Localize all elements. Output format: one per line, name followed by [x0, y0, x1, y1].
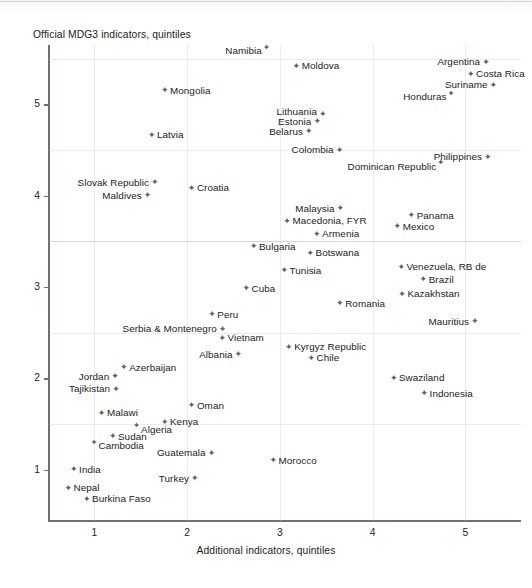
star-marker-icon: ✦ [148, 130, 156, 141]
star-marker-icon: ✦ [70, 464, 78, 475]
data-point: ✦Mexico [394, 221, 435, 233]
data-point-label: Cuba [252, 283, 276, 294]
data-point-label: Burkina Faso [92, 493, 151, 504]
data-point: ✦Venezuela, RB de [397, 261, 486, 273]
data-point-label: Slovak Republic [78, 177, 150, 188]
data-point-label: Macedonia, FYR [292, 215, 366, 226]
data-point-label: Oman [197, 400, 224, 411]
data-point: ✦Malawi [98, 407, 138, 419]
data-point-label: Tunisia [290, 265, 322, 276]
data-point-label: Turkey [159, 473, 189, 484]
y-tick-label-2: 2 [14, 372, 40, 383]
data-point-label: Cambodia [98, 440, 143, 451]
data-point: ✦Armenia [313, 228, 359, 240]
star-marker-icon: ✦ [307, 248, 315, 259]
data-point-label: Brazil [429, 274, 454, 285]
star-marker-icon: ✦ [336, 298, 344, 309]
data-point: ✦Cambodia [90, 440, 144, 452]
star-marker-icon: ✦ [98, 408, 106, 419]
star-marker-icon: ✦ [281, 265, 289, 276]
y-tick-mark-4 [44, 196, 49, 197]
data-point-label: Costa Rica [476, 68, 525, 79]
x-tick-label-2: 2 [172, 527, 202, 538]
data-point-label: Panama [417, 210, 454, 221]
x-tick-label-4: 4 [358, 527, 388, 538]
star-marker-icon: ✦ [337, 203, 345, 214]
star-marker-icon: ✦ [243, 283, 251, 294]
data-point: ✦India [70, 464, 101, 476]
data-point-label: Latvia [157, 129, 184, 140]
star-marker-icon: ✦ [234, 349, 242, 360]
data-point: ✦Romania [336, 298, 385, 310]
data-point: Turkey✦ [159, 473, 199, 485]
star-marker-icon: ✦ [293, 61, 301, 72]
data-point: ✦Macedonia, FYR [283, 215, 366, 227]
data-point-label: Malaysia [295, 203, 334, 214]
star-marker-icon: ✦ [263, 42, 270, 53]
star-marker-icon: ✦ [208, 309, 216, 320]
data-point: ✦Moldova [293, 60, 340, 72]
data-point-label: Malawi [107, 407, 138, 418]
data-point-label: Serbia & Montenegro [123, 323, 217, 334]
star-marker-icon: ✦ [437, 157, 444, 168]
star-marker-icon: ✦ [250, 241, 258, 252]
data-point: ✦Latvia [148, 129, 184, 141]
data-point-label: Indonesia [430, 388, 473, 399]
y-tick-label-1: 1 [14, 464, 40, 475]
data-point: Mauritius✦ [429, 316, 479, 328]
y-axis-title: Official MDG3 indicators, quintiles [33, 29, 191, 40]
data-point: ✦Morocco [269, 455, 316, 467]
star-marker-icon: ✦ [420, 274, 428, 285]
star-marker-icon: ✦ [112, 384, 120, 395]
y-tick-mark-3 [44, 287, 49, 288]
star-marker-icon: ✦ [467, 69, 475, 80]
x-tick-label-5: 5 [450, 527, 480, 538]
data-point: ✦Indonesia [421, 388, 473, 400]
scatter-plot-figure: Official MDG3 indicators, quintiles 5432… [0, 0, 532, 588]
data-point-label: Peru [217, 309, 238, 320]
gridline-horizontal [49, 333, 521, 334]
data-point: Serbia & Montenegro✦ [123, 323, 227, 335]
data-point-label: Kyrgyz Republic [294, 341, 366, 352]
data-point-label: Namibia [225, 45, 262, 56]
star-marker-icon: ✦ [218, 333, 226, 344]
data-point-label: Chile [316, 352, 339, 363]
data-point: Dominican Republic✦ [348, 161, 445, 173]
data-point-label: Morocco [278, 455, 316, 466]
data-point-label: Maldives [102, 190, 141, 201]
data-point: Colombia✦ [292, 144, 344, 156]
data-point-label: Bulgaria [259, 241, 296, 252]
star-marker-icon: ✦ [408, 210, 416, 221]
data-point-label: Kenya [170, 416, 198, 427]
data-point: Guatemala✦ [157, 447, 215, 459]
data-point-label: Mauritius [429, 316, 470, 327]
star-marker-icon: ✦ [83, 494, 91, 505]
data-point: ✦Botswana [307, 247, 360, 259]
y-tick-mark-5 [44, 104, 49, 105]
data-point-label: Dominican Republic [348, 161, 437, 172]
data-point-label: Vietnam [227, 332, 263, 343]
data-point: Tajikistan✦ [69, 383, 120, 395]
gridline-horizontal [49, 424, 521, 425]
data-point-label: Mexico [403, 221, 435, 232]
data-point: ✦Cuba [243, 283, 276, 295]
data-point-label: Romania [345, 298, 385, 309]
star-marker-icon: ✦ [269, 455, 277, 466]
data-point-label: Armenia [322, 228, 359, 239]
star-marker-icon: ✦ [336, 145, 344, 156]
data-point-label: Belarus [269, 126, 303, 137]
gridline-vertical [373, 45, 374, 521]
data-point-label: Croatia [197, 182, 229, 193]
data-point: Namibia✦ [225, 45, 270, 57]
star-marker-icon: ✦ [394, 221, 402, 232]
star-marker-icon: ✦ [398, 289, 406, 300]
y-tick-label-5: 5 [14, 98, 40, 109]
y-axis-line [48, 45, 50, 522]
star-marker-icon: ✦ [307, 353, 315, 364]
star-marker-icon: ✦ [120, 362, 128, 373]
data-point-label: Guatemala [157, 447, 206, 458]
data-point-label: Tajikistan [69, 383, 110, 394]
data-point-label: Argentina [437, 56, 480, 67]
star-marker-icon: ✦ [421, 388, 429, 399]
data-point: ✦Azerbaijan [120, 362, 176, 374]
